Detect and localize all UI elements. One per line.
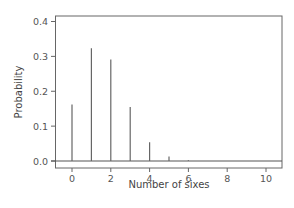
y-tick-label: 0.2 [33, 86, 48, 97]
y-tick-label: 0.0 [33, 156, 48, 167]
x-tick-label: 0 [69, 173, 75, 184]
x-tick-label: 10 [260, 173, 272, 184]
x-tick-label: 8 [224, 173, 230, 184]
y-axis-label: Probability [13, 65, 24, 118]
x-axis-label: Number of sixes [128, 179, 209, 190]
y-tick-label: 0.4 [33, 16, 48, 27]
y-tick-label: 0.3 [33, 51, 48, 62]
x-tick-label: 2 [108, 173, 114, 184]
probability-stem-chart: 0.00.10.20.30.4 0246810 Probability Numb… [0, 0, 294, 208]
stems [72, 48, 188, 161]
y-axis: 0.00.10.20.30.4 [33, 16, 56, 167]
plot-frame [56, 16, 283, 168]
y-tick-label: 0.1 [33, 121, 48, 132]
